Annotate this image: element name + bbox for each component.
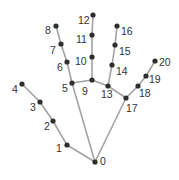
joint-label-2: 2 bbox=[44, 120, 50, 132]
joint-label-3: 3 bbox=[30, 101, 36, 113]
bone-3-4 bbox=[22, 84, 40, 102]
joint-point-7 bbox=[58, 41, 63, 46]
joint-label-10: 10 bbox=[75, 55, 87, 67]
joint-point-1 bbox=[64, 142, 69, 147]
joint-point-19 bbox=[143, 73, 148, 78]
joint-point-8 bbox=[53, 23, 58, 28]
joint-label-16: 16 bbox=[121, 25, 133, 37]
bone-7-8 bbox=[56, 26, 61, 44]
joint-point-2 bbox=[50, 118, 55, 123]
bone-5-9 bbox=[72, 80, 92, 83]
joint-point-3 bbox=[37, 99, 42, 104]
hand-landmarks-diagram: 01234567891011121314151617181920 bbox=[0, 0, 179, 180]
bone-connections bbox=[22, 15, 155, 162]
joint-point-10 bbox=[89, 54, 94, 59]
joint-point-17 bbox=[123, 95, 128, 100]
joint-point-11 bbox=[89, 32, 94, 37]
bone-2-3 bbox=[40, 102, 53, 121]
joint-point-6 bbox=[64, 59, 69, 64]
joint-point-12 bbox=[90, 12, 95, 17]
bone-5-6 bbox=[67, 62, 72, 83]
bone-15-16 bbox=[115, 26, 117, 45]
joint-label-18: 18 bbox=[139, 87, 151, 99]
joint-label-9: 9 bbox=[82, 85, 88, 97]
joint-label-17: 17 bbox=[126, 102, 138, 114]
joint-label-8: 8 bbox=[45, 24, 51, 36]
joint-point-0 bbox=[92, 159, 97, 164]
joint-label-20: 20 bbox=[159, 56, 171, 68]
bone-6-7 bbox=[61, 44, 67, 62]
joint-label-4: 4 bbox=[12, 83, 18, 95]
bone-14-15 bbox=[112, 45, 115, 65]
joint-point-20 bbox=[152, 58, 157, 63]
joint-label-14: 14 bbox=[116, 65, 128, 77]
joint-label-11: 11 bbox=[76, 33, 87, 45]
joint-point-16 bbox=[114, 23, 119, 28]
hand-skeleton-canvas: 01234567891011121314151617181920 bbox=[0, 0, 179, 180]
joint-point-14 bbox=[109, 62, 114, 67]
joint-label-1: 1 bbox=[56, 142, 62, 154]
bone-13-14 bbox=[108, 65, 112, 86]
joint-label-0: 0 bbox=[100, 155, 106, 167]
joint-point-4 bbox=[19, 81, 24, 86]
joint-label-15: 15 bbox=[119, 45, 131, 57]
bone-11-12 bbox=[92, 15, 93, 35]
joint-point-9 bbox=[89, 77, 94, 82]
joint-label-13: 13 bbox=[101, 88, 113, 100]
bone-0-17 bbox=[95, 98, 126, 162]
joint-label-12: 12 bbox=[78, 14, 90, 26]
joint-label-5: 5 bbox=[62, 82, 68, 94]
joint-label-19: 19 bbox=[149, 73, 161, 85]
joint-label-7: 7 bbox=[50, 44, 56, 56]
joint-point-5 bbox=[69, 80, 74, 85]
joint-label-6: 6 bbox=[57, 61, 63, 73]
joint-point-15 bbox=[112, 42, 117, 47]
